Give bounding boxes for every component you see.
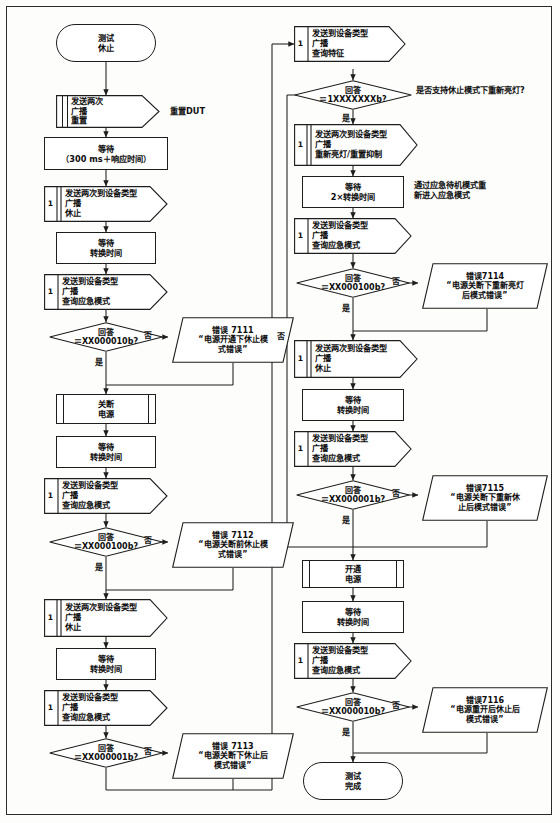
send-rest-1-line-2: 休止 bbox=[65, 209, 81, 219]
wait-switch-3-line-0: 等待 bbox=[90, 654, 122, 664]
query-mode-5-text: 发送到设备类型 广播 查询应急模式 bbox=[312, 431, 394, 467]
node-wait-switch-2: 等待 转换时间 bbox=[56, 436, 156, 468]
node-start-line-0: 测试 bbox=[98, 33, 114, 43]
lbl-yes-7112: 是 bbox=[95, 561, 103, 572]
power-on-line-0: 开通 bbox=[345, 564, 361, 574]
send-reset-line-2: 重置 bbox=[71, 116, 87, 126]
query-mode-6-index: 1 bbox=[294, 643, 307, 679]
wait-switch-4-line-0: 等待 bbox=[337, 395, 369, 405]
wait-switch-1-line-1: 转换时间 bbox=[90, 248, 122, 258]
anno-support-question-line-0: 是否支持休止模式下重新亮灯? bbox=[416, 85, 525, 95]
node-query-mode-5: 1 发送到设备类型 广播 查询应急模式 bbox=[294, 431, 412, 467]
lbl-no-7111: 否 bbox=[144, 329, 152, 340]
node-start-line-1: 休止 bbox=[98, 43, 114, 53]
node-query-mode-1: 1 发送到设备类型 广播 查询应急模式 bbox=[44, 274, 168, 310]
anno-reenter-emergency: 通过应急待机模式重 新进入应急模式 bbox=[414, 180, 486, 201]
err-7113-outline bbox=[172, 733, 294, 779]
node-send-reset: 发送两次 广播 重置 bbox=[56, 95, 160, 128]
err-7116-outline bbox=[422, 687, 548, 733]
query-mode-2-text: 发送到设备类型 广播 查询应急模式 bbox=[62, 478, 150, 514]
query-mode-1-line-2: 查询应急模式 bbox=[62, 297, 110, 307]
node-query-mode-3: 1 发送到设备类型 广播 查询应急模式 bbox=[44, 690, 168, 726]
node-query-mode-6: 1 发送到设备类型 广播 查询应急模式 bbox=[294, 643, 412, 679]
err-7114-outline bbox=[422, 263, 548, 309]
node-wait-switch-4: 等待 转换时间 bbox=[302, 389, 404, 421]
node-err-7115: 错误7115 “电源关断下重新休 止后模式错误” bbox=[422, 475, 548, 521]
lbl-no-support: 否 bbox=[277, 330, 285, 341]
node-power-off: 关断 电源 bbox=[56, 394, 156, 424]
wait-300ms-line-0: 等待 bbox=[61, 144, 150, 154]
wait-switch-2-line-1: 转换时间 bbox=[90, 452, 122, 462]
query-mode-1-text: 发送到设备类型 广播 查询应急模式 bbox=[62, 274, 150, 310]
node-err-7111: 错误 7111 “电源开通下休止模 式错误” bbox=[172, 317, 294, 363]
power-on-bar-right bbox=[396, 561, 397, 587]
lbl-no-7114: 否 bbox=[392, 275, 400, 286]
anno-reenter-line-1: 新进入应急模式 bbox=[414, 190, 486, 200]
query-feature-index: 1 bbox=[294, 26, 307, 62]
node-wait-switch-1: 等待 转换时间 bbox=[56, 232, 156, 264]
query-mode-6-text: 发送到设备类型 广播 查询应急模式 bbox=[312, 643, 394, 679]
anno-reset-dut-line-0: 重置DUT bbox=[170, 106, 205, 116]
send-relight-index: 1 bbox=[294, 124, 307, 166]
query-mode-3-index: 1 bbox=[44, 690, 57, 726]
node-err-7116: 错误7116 “电源重开后休止后 模式错误” bbox=[422, 687, 548, 733]
node-err-7113: 错误 7113 “电源关断下休止后 模式错误” bbox=[172, 733, 294, 779]
query-mode-1-index: 1 bbox=[44, 274, 57, 310]
node-wait-2x: 等待 2×转换时间 bbox=[302, 176, 404, 208]
anno-reenter-line-0: 通过应急待机模式重 bbox=[414, 180, 486, 190]
query-mode-5-line-2: 查询应急模式 bbox=[312, 454, 360, 464]
flowchart-page: 测试 休止 发送两次 广播 重置 重置DUT 等待 （300 ms＋响应时间） … bbox=[0, 0, 560, 823]
node-wait-switch-3: 等待 转换时间 bbox=[56, 648, 156, 680]
query-mode-3-text: 发送到设备类型 广播 查询应急模式 bbox=[62, 690, 150, 726]
query-feature-text: 发送到设备类型 广播 查询特征 bbox=[312, 26, 388, 62]
power-on-line-1: 电源 bbox=[345, 574, 361, 584]
send-relight-line-2: 重新亮灯/重置抑制 bbox=[315, 150, 382, 160]
send-rest-2-index: 1 bbox=[44, 599, 57, 637]
node-send-rest-3: 1 发送两次到设备类型 广播 休止 bbox=[294, 340, 418, 378]
node-query-mode-2: 1 发送到设备类型 广播 查询应急模式 bbox=[44, 478, 168, 514]
node-send-rest-2: 1 发送两次到设备类型 广播 休止 bbox=[44, 599, 168, 637]
anno-reset-dut: 重置DUT bbox=[170, 106, 205, 116]
node-end-line-1: 完成 bbox=[345, 781, 361, 791]
power-off-bar-left bbox=[63, 395, 64, 423]
node-wait-switch-5: 等待 转换时间 bbox=[302, 601, 404, 633]
wait-300ms-line-1: （300 ms＋响应时间） bbox=[61, 154, 150, 164]
node-err-7114: 错误7114 “电源关断下重新亮灯 后模式错误” bbox=[422, 263, 548, 309]
lbl-yes-7116: 是 bbox=[342, 726, 350, 737]
node-dec-support: 回答 ＝1XXXXXXXb? bbox=[294, 80, 412, 110]
power-off-line-1: 电源 bbox=[98, 409, 114, 419]
query-mode-4-text: 发送到设备类型 广播 查询应急模式 bbox=[312, 218, 394, 254]
err-7111-outline bbox=[172, 317, 294, 363]
node-start: 测试 休止 bbox=[56, 24, 156, 62]
wait-switch-2-line-0: 等待 bbox=[90, 442, 122, 452]
query-mode-5-index: 1 bbox=[294, 431, 307, 467]
wait-switch-1-line-0: 等待 bbox=[90, 238, 122, 248]
send-rest-1-text: 发送两次到设备类型 广播 休止 bbox=[65, 186, 150, 222]
query-mode-2-line-2: 查询应急模式 bbox=[62, 501, 110, 511]
query-feature-line-2: 查询特征 bbox=[312, 49, 344, 59]
query-mode-4-index: 1 bbox=[294, 218, 307, 254]
query-mode-3-line-2: 查询应急模式 bbox=[62, 713, 110, 723]
query-mode-6-line-2: 查询应急模式 bbox=[312, 666, 360, 676]
lbl-no-7112: 否 bbox=[144, 534, 152, 545]
wait-2x-line-0: 等待 bbox=[331, 182, 376, 192]
send-rest-3-text: 发送两次到设备类型 广播 休止 bbox=[315, 340, 400, 378]
node-power-on: 开通 电源 bbox=[302, 560, 404, 588]
send-rest-3-index: 1 bbox=[294, 340, 307, 378]
err-7115-outline bbox=[422, 475, 548, 521]
node-query-feature: 1 发送到设备类型 广播 查询特征 bbox=[294, 26, 406, 62]
node-end: 测试 完成 bbox=[303, 762, 403, 800]
wait-switch-3-line-1: 转换时间 bbox=[90, 664, 122, 674]
lbl-no-7116: 否 bbox=[392, 699, 400, 710]
wait-switch-4-line-1: 转换时间 bbox=[337, 405, 369, 415]
node-query-mode-4: 1 发送到设备类型 广播 查询应急模式 bbox=[294, 218, 412, 254]
query-mode-4-line-2: 查询应急模式 bbox=[312, 241, 360, 251]
send-relight-text: 发送两次到设备类型 广播 重新亮灯/重置抑制 bbox=[315, 124, 400, 166]
node-end-line-0: 测试 bbox=[345, 771, 361, 781]
query-mode-2-index: 1 bbox=[44, 478, 57, 514]
lbl-yes-7111: 是 bbox=[95, 356, 103, 367]
power-off-line-0: 关断 bbox=[98, 399, 114, 409]
lbl-yes-7115: 是 bbox=[342, 514, 350, 525]
err-7112-outline bbox=[172, 522, 294, 568]
lbl-no-7113: 否 bbox=[144, 745, 152, 756]
